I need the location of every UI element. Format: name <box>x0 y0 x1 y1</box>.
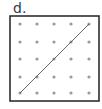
dot-grid-diagram <box>0 0 102 109</box>
grid-dot <box>18 75 21 78</box>
grid-dot <box>87 91 90 94</box>
grid-dot <box>18 22 21 25</box>
grid-dot <box>69 22 72 25</box>
grid-dot <box>69 91 72 94</box>
grid-dot <box>69 75 72 78</box>
grid-dot <box>69 57 72 60</box>
grid-dot <box>35 40 38 43</box>
grid-dot <box>52 40 55 43</box>
grid-dot <box>35 91 38 94</box>
grid-dot <box>18 57 21 60</box>
grid-dot <box>18 40 21 43</box>
grid-dot <box>52 91 55 94</box>
grid-dot <box>87 75 90 78</box>
grid-dot <box>35 57 38 60</box>
grid-dot <box>35 22 38 25</box>
grid-dot <box>87 57 90 60</box>
grid-dot <box>87 40 90 43</box>
grid-dot <box>52 22 55 25</box>
grid-dot <box>52 75 55 78</box>
diagonal-line <box>20 24 89 93</box>
